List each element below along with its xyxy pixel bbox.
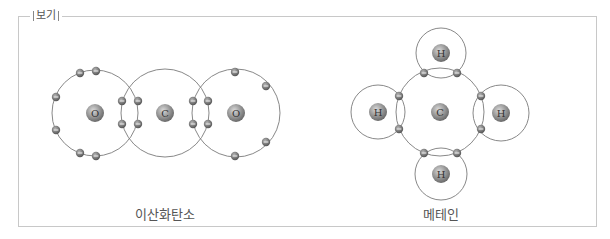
- electron-dot-diagrams: OCO CHHHH: [0, 0, 610, 239]
- atom-symbol: H: [437, 48, 446, 59]
- atom-symbol: H: [437, 169, 446, 180]
- atom-symbol: H: [497, 108, 506, 119]
- ch4-molecule: CHHHH: [351, 28, 529, 200]
- co2-caption: 이산화탄소: [135, 204, 195, 223]
- co2-molecule: OCO: [52, 67, 280, 160]
- atom-symbol: H: [374, 107, 383, 118]
- atom-symbol: C: [161, 108, 169, 119]
- atom-symbol: O: [91, 108, 99, 119]
- ch4-caption: 메테인: [423, 204, 459, 223]
- atom-symbol: C: [436, 107, 444, 118]
- atom-symbol: O: [232, 108, 240, 119]
